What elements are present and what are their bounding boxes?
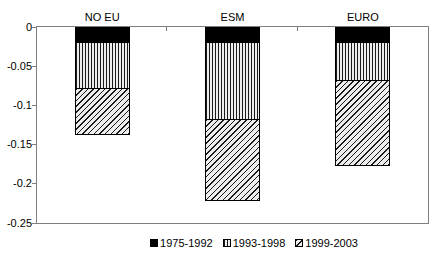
legend-label: 1993-1998	[233, 237, 286, 249]
y-axis-tick-label: -0.05	[1, 60, 32, 72]
x-axis-tick-mark	[297, 27, 298, 31]
y-axis-tick-mark	[32, 223, 36, 224]
y-axis-tick-mark	[32, 66, 36, 67]
legend: 1975-19921993-19981999-2003	[0, 236, 444, 250]
legend-item: 1999-2003	[295, 237, 358, 249]
bar-segment-1993-1998	[205, 42, 260, 120]
legend-swatch-vertical-stripes-icon	[223, 239, 231, 247]
y-axis-tick-mark	[32, 183, 36, 184]
bar-esm	[205, 27, 260, 201]
legend-item: 1975-1992	[150, 237, 213, 249]
legend-swatch-solid-black-icon	[150, 239, 158, 247]
chart-canvas: 1975-19921993-19981999-2003 NO EUESMEURO…	[0, 0, 444, 256]
y-axis-tick-label: 0	[1, 21, 32, 33]
y-axis-tick-mark	[32, 105, 36, 106]
legend-label: 1975-1992	[160, 237, 213, 249]
y-axis-tick-label: -0.2	[1, 177, 32, 189]
bar-segment-1999-2003	[205, 119, 260, 201]
bar-no-eu	[75, 27, 130, 135]
x-axis-tick-mark	[166, 27, 167, 31]
legend-item: 1993-1998	[223, 237, 286, 249]
bar-segment-1975-1992	[75, 27, 130, 43]
y-axis-tick-mark	[32, 27, 36, 28]
legend-label: 1999-2003	[305, 237, 358, 249]
bar-euro	[335, 27, 390, 166]
y-axis-tick-label: -0.15	[1, 138, 32, 150]
bar-segment-1999-2003	[75, 88, 130, 135]
y-axis-tick-mark	[32, 144, 36, 145]
plot-area	[36, 26, 429, 224]
bar-segment-1993-1998	[335, 42, 390, 81]
bar-segment-1993-1998	[75, 42, 130, 89]
category-label: EURO	[318, 11, 408, 24]
bar-segment-1975-1992	[205, 27, 260, 43]
category-label: NO EU	[57, 11, 147, 24]
bar-segment-1975-1992	[335, 27, 390, 43]
y-axis-tick-label: -0.1	[1, 99, 32, 111]
category-label: ESM	[188, 11, 278, 24]
bar-segment-1999-2003	[335, 80, 390, 166]
legend-swatch-diagonal-stripes-icon	[295, 239, 303, 247]
y-axis-tick-label: -0.25	[1, 217, 32, 229]
